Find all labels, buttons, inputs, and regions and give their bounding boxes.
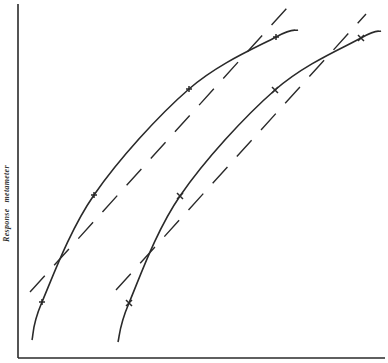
- y-axis-label-word-2: metameter: [2, 165, 11, 202]
- solid-curve-a: [32, 30, 298, 340]
- dashed-fit-line-a: [30, 8, 287, 292]
- series-layer: [30, 8, 381, 342]
- plus-marker-icon: [39, 299, 45, 305]
- cross-marker-icon: [272, 87, 278, 93]
- y-axis-label-word-1: Response: [2, 208, 11, 242]
- y-axis-label: Responsemetameter: [2, 162, 14, 242]
- chart-canvas: [0, 0, 388, 363]
- solid-curve-b: [118, 31, 381, 342]
- marker-layer: [39, 34, 364, 306]
- plus-marker-icon: [273, 34, 279, 40]
- cross-marker-icon: [358, 35, 364, 41]
- cross-marker-icon: [126, 300, 132, 306]
- cross-marker-icon: [177, 193, 183, 199]
